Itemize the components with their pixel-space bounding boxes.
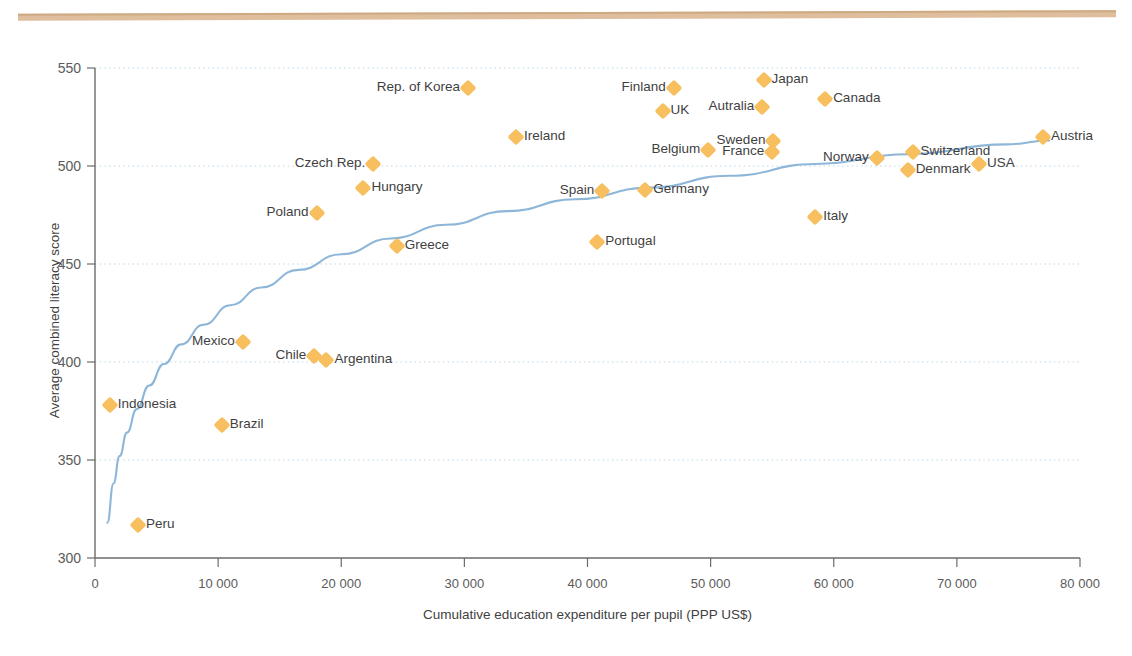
data-point-label: Rep. of Korea: [377, 79, 460, 96]
x-tick-label: 80 000: [1060, 576, 1100, 591]
x-tick-label: 20 000: [321, 576, 361, 591]
x-tick-label: 70 000: [937, 576, 977, 591]
y-axis-title: Average combined literacy score: [47, 121, 62, 521]
data-point-label: Japan: [772, 71, 809, 88]
data-point-label: Autralia: [709, 98, 755, 115]
x-tick-label: 30 000: [444, 576, 484, 591]
x-tick-label: 40 000: [568, 576, 608, 591]
data-point-label: Poland: [267, 204, 309, 221]
x-tick-label: 10 000: [198, 576, 238, 591]
gridlines: [95, 68, 1080, 460]
data-point-label: Canada: [833, 90, 880, 107]
data-point-label: Italy: [823, 208, 848, 225]
data-point-label: Portugal: [605, 233, 655, 250]
data-point-label: Norway: [823, 149, 869, 166]
data-point-label: Spain: [560, 182, 595, 199]
data-point-label: Chile: [275, 347, 306, 364]
data-point-label: Argentina: [334, 351, 392, 368]
data-point-label: Denmark: [916, 161, 971, 178]
data-point-label: Mexico: [192, 333, 235, 350]
data-point-label: Brazil: [230, 416, 264, 433]
data-point-label: Belgium: [651, 141, 700, 158]
x-tick-label: 60 000: [814, 576, 854, 591]
data-point-label: Austria: [1051, 128, 1093, 145]
plot-canvas: [0, 0, 1132, 656]
x-tick-label: 0: [91, 576, 98, 591]
data-point-label: Czech Rep.: [295, 155, 366, 172]
data-point-label: Germany: [653, 181, 709, 198]
data-point-label: Indonesia: [118, 396, 177, 413]
data-point-label: France: [722, 143, 764, 160]
data-point-label: Finland: [621, 79, 665, 96]
y-tick-label: 300: [27, 551, 81, 565]
x-tick-label: 50 000: [691, 576, 731, 591]
y-axis-ticks: [87, 68, 95, 558]
scatter-plot: 300350400450500550 010 00020 00030 00040…: [0, 0, 1132, 656]
data-point-label: Peru: [146, 516, 175, 533]
chart-figure: 300350400450500550 010 00020 00030 00040…: [0, 0, 1132, 656]
data-point-label: Ireland: [524, 128, 565, 145]
data-point-label: USA: [987, 155, 1015, 172]
x-axis-title: Cumulative education expenditure per pup…: [95, 607, 1080, 622]
data-point-label: Hungary: [371, 179, 422, 196]
data-point-label: Greece: [405, 237, 449, 254]
y-tick-label: 550: [27, 61, 81, 75]
x-axis-ticks: [95, 558, 1080, 567]
data-point-label: UK: [671, 102, 690, 119]
axis-lines: [95, 68, 1080, 558]
